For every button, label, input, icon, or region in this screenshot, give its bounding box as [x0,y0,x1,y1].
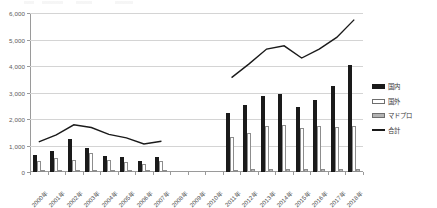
x-tick-mark [188,172,189,175]
x-axis-tick-label: 2013年 [257,189,277,208]
chart-legend: 国内国外マドプロ合計 [372,82,412,135]
legend-swatch-icon [372,99,385,104]
x-axis-tick-label: 2004年 [99,189,119,208]
x-tick-mark [48,172,49,175]
y-axis-tick-label: 0 [21,169,25,176]
total-line [232,20,355,78]
x-axis-tick-label: 2015年 [292,189,312,208]
x-axis-tick-label: 2008年 [169,189,189,208]
x-axis-tick-label: 2003年 [82,189,102,208]
x-tick-mark [153,172,154,175]
x-axis-tick-label: 2002年 [64,189,84,208]
legend-item-label: 国外 [388,97,400,106]
x-tick-mark [258,172,259,175]
y-axis-tick-label: 1,000 [9,142,25,149]
legend-item-label: 国内 [388,82,400,91]
x-axis-tick-label: 2009年 [187,189,207,208]
x-axis-tick-label: 2010年 [204,189,224,208]
x-tick-mark [205,172,206,175]
x-axis-tick-label: 2018年 [345,189,365,208]
total-line-series [30,13,363,172]
x-tick-mark [170,172,171,175]
x-axis-tick-label: 2006年 [134,189,154,208]
x-tick-mark [83,172,84,175]
y-axis-tick-label: 2,000 [9,116,25,123]
chart-container: 01,0002,0003,0004,0005,0006,000 2000年200… [0,0,437,208]
x-tick-mark [135,172,136,175]
x-axis-tick-label: 2007年 [152,189,172,208]
legend-item-label: 合計 [388,126,400,135]
legend-item[interactable]: 国内 [372,82,412,91]
x-tick-mark [328,172,329,175]
x-tick-mark [223,172,224,175]
x-tick-mark [293,172,294,175]
legend-item[interactable]: マドプロ [372,111,412,120]
clipped-title-fragment [24,1,154,4]
x-axis-tick-label: 2005年 [117,189,137,208]
total-line [39,125,162,144]
legend-swatch-icon [372,129,385,131]
legend-swatch-icon [372,84,385,89]
x-axis-tick-label: 2012年 [239,189,259,208]
x-tick-mark [240,172,241,175]
legend-item[interactable]: 合計 [372,126,412,135]
y-axis-tick-label: 3,000 [9,89,25,96]
legend-item-label: マドプロ [388,111,412,120]
x-tick-mark [65,172,66,175]
x-tick-mark [345,172,346,175]
x-axis-tick-label: 2014年 [274,189,294,208]
y-axis-tick-label: 4,000 [9,63,25,70]
legend-item[interactable]: 国外 [372,97,412,106]
legend-swatch-icon [372,113,385,118]
x-tick-mark [30,172,31,175]
x-tick-mark [310,172,311,175]
x-tick-mark [363,172,364,175]
x-tick-mark [100,172,101,175]
x-axis-tick-label: 2017年 [327,189,347,208]
plot-area: 01,0002,0003,0004,0005,0006,000 2000年200… [30,13,363,172]
x-axis-tick-label: 2001年 [47,189,67,208]
x-axis-tick-label: 2000年 [29,189,49,208]
y-axis-tick-label: 5,000 [9,36,25,43]
x-tick-mark [275,172,276,175]
x-axis-tick-label: 2016年 [309,189,329,208]
x-tick-mark [118,172,119,175]
x-axis-tick-label: 2011年 [222,189,242,208]
y-axis-tick-label: 6,000 [9,10,25,17]
